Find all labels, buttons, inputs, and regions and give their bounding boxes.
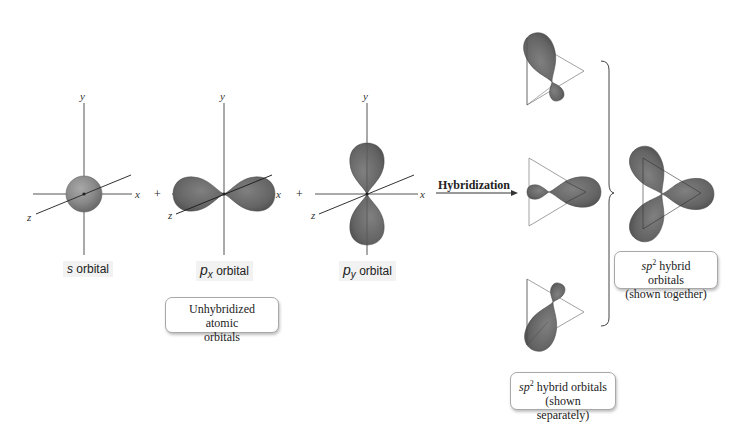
callout-line-2: (shown together) xyxy=(623,287,709,301)
x-axis-label: x xyxy=(134,188,140,200)
z-axis-label: z xyxy=(167,209,173,221)
sp2-hybrid-bottom xyxy=(520,278,584,356)
sp2-separate-callout: sp2 hybrid orbitals (shown separately) xyxy=(510,372,616,410)
x-axis-label: x xyxy=(275,188,281,200)
grouping-brace xyxy=(601,61,614,326)
callout-line-2: (shown separately) xyxy=(519,394,607,422)
orbital-letter: p xyxy=(200,262,208,278)
callout-line-1: sp2 hybrid orbitals xyxy=(519,377,607,394)
sp2-together-callout: sp2 hybrid orbitals (shown together) xyxy=(614,251,718,289)
y-axis-label: y xyxy=(219,90,225,102)
orbital-text: orbital xyxy=(73,262,109,276)
s-orbital-figure: y x z xyxy=(26,90,140,255)
py-orbital-figure: y x z xyxy=(310,90,425,255)
sp2-hybrid-top xyxy=(519,28,584,106)
orbital-text: orbital xyxy=(356,264,392,278)
px-orbital-label: px orbital xyxy=(196,261,253,281)
y-axis-label: y xyxy=(362,90,368,102)
plus-operator: + xyxy=(154,187,161,201)
sp2-hybrid-combined xyxy=(624,141,714,248)
x-axis-label: x xyxy=(419,188,425,200)
sp-text: sp xyxy=(519,380,530,394)
sp-text: sp xyxy=(641,259,652,273)
z-axis-label: z xyxy=(26,211,32,223)
unhybridized-callout: Unhybridized atomic orbitals xyxy=(165,297,279,333)
callout-text: hybrid orbitals xyxy=(534,380,607,394)
z-axis-label: z xyxy=(310,209,316,221)
s-orbital-label: s orbital xyxy=(63,261,113,277)
orbital-text: orbital xyxy=(213,264,249,278)
callout-line-1: sp2 hybrid orbitals xyxy=(623,256,709,287)
plus-operator: + xyxy=(296,187,303,201)
py-orbital-label: py orbital xyxy=(339,261,396,281)
px-orbital-figure: y x z xyxy=(167,90,281,255)
callout-line-2: orbitals xyxy=(174,330,270,344)
callout-line-1: Unhybridized atomic xyxy=(174,302,270,330)
orbital-diagram: y x z + y x z + y x z xyxy=(0,0,737,429)
hybridization-label: Hybridization xyxy=(438,178,510,193)
y-axis-label: y xyxy=(79,90,85,102)
sp2-hybrid-middle xyxy=(527,158,601,226)
orbital-letter: p xyxy=(343,262,351,278)
